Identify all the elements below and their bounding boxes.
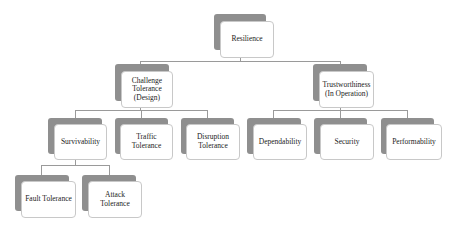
node-disruption-tolerance: Disruption Tolerance bbox=[186, 124, 240, 160]
node-label: Resilience bbox=[231, 35, 262, 44]
node-label: Performability bbox=[392, 138, 436, 147]
node-label: Fault Tolerance bbox=[25, 195, 72, 204]
node-label: Traffic Tolerance bbox=[132, 133, 161, 150]
connector bbox=[407, 110, 408, 118]
node-challenge-tolerance: Challenge Tolerance (Design) bbox=[121, 71, 173, 108]
node-label: Survivability bbox=[61, 138, 100, 147]
node-survivability: Survivability bbox=[54, 124, 107, 160]
connector bbox=[41, 165, 110, 166]
connector bbox=[75, 110, 76, 118]
connector bbox=[340, 110, 341, 118]
connector bbox=[207, 110, 208, 118]
resilience-hierarchy-diagram: Resilience Challenge Tolerance (Design) … bbox=[0, 0, 455, 226]
node-dependability: Dependability bbox=[253, 124, 307, 160]
node-label: Attack Tolerance bbox=[100, 191, 129, 208]
node-label: Disruption Tolerance bbox=[197, 133, 229, 150]
node-traffic-tolerance: Traffic Tolerance bbox=[120, 124, 173, 160]
node-label: Dependability bbox=[259, 138, 302, 147]
connector bbox=[109, 165, 110, 175]
connector bbox=[141, 110, 142, 118]
node-fault-tolerance: Fault Tolerance bbox=[21, 181, 76, 218]
node-resilience: Resilience bbox=[220, 21, 274, 58]
connector bbox=[273, 110, 274, 118]
node-security: Security bbox=[320, 124, 374, 160]
connector bbox=[41, 165, 42, 175]
node-label: Challenge Tolerance (Design) bbox=[132, 77, 162, 103]
node-trustworthiness: Trustworthiness (In Operation) bbox=[319, 71, 374, 108]
node-attack-tolerance: Attack Tolerance bbox=[88, 181, 142, 218]
node-label: Security bbox=[335, 138, 360, 147]
node-performability: Performability bbox=[386, 124, 442, 160]
node-label: Trustworthiness (In Operation) bbox=[322, 81, 370, 98]
connector bbox=[140, 61, 341, 62]
